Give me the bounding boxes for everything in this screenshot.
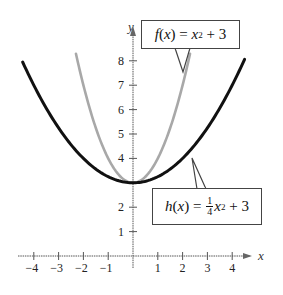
x-tick-label: −4 [25, 261, 38, 275]
h-rest: + 3 [225, 198, 248, 215]
y-tick-label: 5 [118, 127, 124, 141]
x-axis-arrow-icon [243, 253, 252, 259]
x-tick-label: 4 [229, 261, 235, 275]
x-tick-label: 2 [180, 261, 186, 275]
f-function-label: f(x) = x2 + 3 [141, 20, 240, 49]
f-term: x [192, 26, 199, 43]
h-fraction: 14 [206, 196, 213, 217]
x-tick-label: 1 [155, 261, 161, 275]
y-tick-label: 6 [118, 103, 124, 117]
label-pointers [175, 48, 206, 189]
h-denominator: 4 [207, 207, 212, 217]
y-tick-label: 2 [118, 200, 124, 214]
h-var: x [178, 198, 185, 215]
y-tick-label: 8 [118, 54, 124, 68]
x-tick-label: −2 [75, 261, 88, 275]
h-curve [23, 59, 245, 183]
h-label-pointer [192, 158, 206, 189]
x-tick-label: −1 [100, 261, 113, 275]
f-var: x [164, 26, 171, 43]
x-tick-label: 3 [204, 261, 210, 275]
y-axis-label: y [126, 19, 134, 34]
curves [23, 54, 245, 183]
h-name: h [165, 198, 173, 215]
f-eq: = [176, 26, 192, 43]
ticks: −4−3−2−112341245678 [25, 54, 235, 275]
y-tick-label: 7 [118, 78, 124, 92]
h-eq: = [189, 198, 205, 215]
y-tick-label: 1 [118, 225, 124, 239]
h-function-label: h(x) = 14x2 + 3 [152, 188, 262, 225]
f-rest: + 3 [203, 26, 226, 43]
x-tick-label: −3 [50, 261, 63, 275]
y-tick-label: 4 [118, 151, 124, 165]
h-term: x [214, 198, 221, 215]
f-name: f [155, 26, 159, 43]
x-axis-label: x [257, 248, 264, 263]
